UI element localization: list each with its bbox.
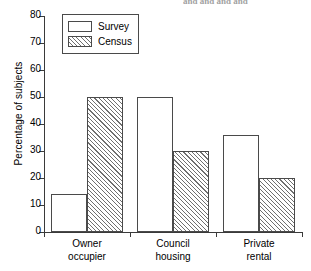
bar-survey-0 <box>51 194 87 232</box>
legend-label-survey: Survey <box>98 21 129 32</box>
bar-census-2 <box>259 178 295 232</box>
legend-swatch-census <box>68 36 92 47</box>
cropped-header-text-fragment: and and and and <box>183 0 307 5</box>
category-label-line: Council <box>130 238 216 251</box>
legend-item-census: Census <box>68 34 132 49</box>
y-axis-tick-label: 70 <box>30 36 41 48</box>
chart-legend: Survey Census <box>62 14 139 54</box>
legend-item-survey: Survey <box>68 19 132 34</box>
legend-label-census: Census <box>98 36 132 47</box>
x-axis-tick-mark <box>130 232 131 237</box>
y-axis-tick-label: 60 <box>30 63 41 75</box>
y-axis-tick-label: 20 <box>30 171 41 183</box>
category-label-line: Owner <box>44 238 130 251</box>
category-label-line: occupier <box>44 251 130 264</box>
bar-survey-1 <box>137 97 173 232</box>
y-axis-tick-label: 80 <box>30 9 41 21</box>
bar-chart: and and and and Percentage of subjects 0… <box>0 0 311 271</box>
category-label-line: housing <box>130 251 216 264</box>
bar-census-1 <box>173 151 209 232</box>
y-axis-tick-label: 40 <box>30 117 41 129</box>
category-label-line: rental <box>216 251 302 264</box>
x-axis-tick-mark <box>44 232 45 237</box>
legend-swatch-survey <box>68 21 92 32</box>
y-axis-tick-label: 50 <box>30 90 41 102</box>
x-axis-category-label: Privaterental <box>216 238 302 263</box>
x-axis-category-label: Owneroccupier <box>44 238 130 263</box>
x-axis-category-label: Councilhousing <box>130 238 216 263</box>
x-axis-tick-mark <box>302 232 303 237</box>
y-axis-tick-label: 30 <box>30 144 41 156</box>
x-axis-tick-mark <box>216 232 217 237</box>
bar-survey-2 <box>223 135 259 232</box>
y-axis-title: Percentage of subjects <box>13 39 24 189</box>
y-axis-tick-label: 10 <box>30 198 41 210</box>
y-axis-line <box>44 16 45 233</box>
bar-census-0 <box>87 97 123 232</box>
category-label-line: Private <box>216 238 302 251</box>
x-axis-line <box>44 232 303 233</box>
y-axis-tick-label: 0 <box>35 225 41 237</box>
